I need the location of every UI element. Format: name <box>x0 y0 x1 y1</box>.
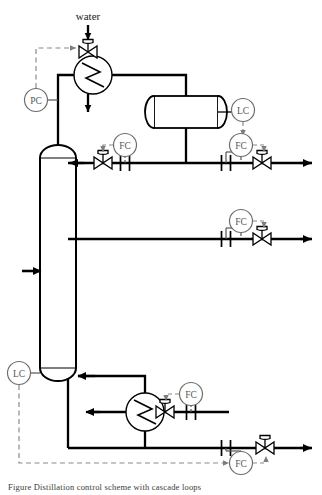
instrument-tag: LC <box>13 369 25 379</box>
flow-controller-reflux[interactable]: FC <box>114 134 137 157</box>
instrument-tag: FC <box>185 390 197 400</box>
flow-controller-bottoms[interactable]: FC <box>230 452 253 475</box>
instrument-tag: FC <box>235 141 247 151</box>
figure-caption: Figure Distillation control scheme with … <box>8 482 318 492</box>
pid-diagram-canvas: PC LC FC FC FC LC <box>0 0 322 495</box>
pressure-controller[interactable]: PC <box>25 89 48 112</box>
control-valve-sidedraw[interactable] <box>253 227 271 246</box>
instrument-tag: PC <box>30 96 42 106</box>
instrument-tag: FC <box>119 141 131 151</box>
instrument-tag: LC <box>237 106 249 116</box>
process-piping <box>22 75 312 448</box>
flow-controller-sidedraw[interactable]: FC <box>230 210 253 233</box>
water-stream-label: water <box>76 10 101 22</box>
level-controller-drum[interactable]: LC <box>232 99 255 122</box>
control-valve-bottoms[interactable] <box>256 436 274 455</box>
level-controller-bottoms[interactable]: LC <box>8 362 31 385</box>
control-valve-reflux[interactable] <box>94 151 112 170</box>
condenser-heat-exchanger <box>74 56 112 94</box>
control-valve-cooling-water[interactable] <box>79 40 97 59</box>
instrument-tag: FC <box>235 459 247 469</box>
process-flow-diagram: PC LC FC FC FC LC <box>0 0 322 495</box>
reflux-drum <box>145 96 232 128</box>
instrument-tag: FC <box>235 217 247 227</box>
distillation-column <box>40 145 76 381</box>
flow-controller-distillate[interactable]: FC <box>230 134 253 157</box>
control-valve-distillate[interactable] <box>253 151 271 170</box>
flow-controller-steam[interactable]: FC <box>180 383 203 406</box>
